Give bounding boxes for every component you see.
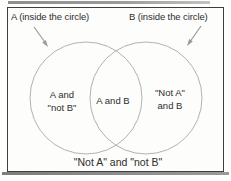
- region-b-line1: "Not A": [140, 86, 200, 99]
- callout-label-b: B (inside the circle): [129, 11, 208, 22]
- region-label-a-only: A and "not B": [27, 88, 97, 114]
- arrow-a-head-icon: [42, 40, 48, 47]
- region-a-line1: A and: [27, 88, 97, 101]
- venn-figure: A (inside the circle) B (inside the circ…: [0, 0, 231, 181]
- region-a-line2: "not B": [27, 101, 97, 114]
- region-label-b-only: "Not A" and B: [140, 86, 200, 112]
- region-label-intersection: A and B: [88, 94, 138, 107]
- arrow-b-line: [190, 26, 202, 43]
- region-label-outside: "Not A" and "not B": [38, 156, 198, 168]
- callout-label-a: A (inside the circle): [11, 11, 89, 22]
- arrow-a-line: [34, 27, 45, 42]
- region-b-line2: and B: [140, 99, 200, 112]
